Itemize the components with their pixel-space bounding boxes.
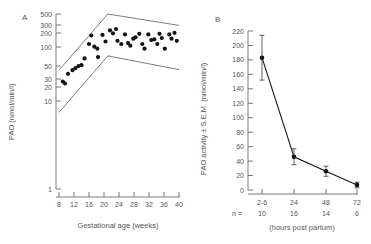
panel-a-boundaries bbox=[59, 14, 179, 112]
ytick-160: 160 bbox=[232, 71, 244, 78]
data-point bbox=[140, 42, 144, 46]
lower-bound-curve bbox=[59, 56, 179, 113]
panel-b-x-ticks bbox=[262, 189, 357, 194]
ytick-1: 1 bbox=[48, 186, 52, 193]
xtick-24: 24 bbox=[290, 199, 298, 206]
panel-b-n-row: n = 10 16 14 6 bbox=[232, 210, 359, 217]
data-point bbox=[66, 72, 70, 76]
panel-a-x-axis-title: Gestational age (weeks) bbox=[78, 221, 159, 230]
panel-b-y-ticks bbox=[248, 31, 253, 190]
xtick-16: 16 bbox=[85, 201, 93, 208]
panel-a-x-ticklabels: 8 12 16 20 24 28 32 36 40 bbox=[57, 201, 183, 208]
data-point bbox=[82, 56, 86, 60]
data-point bbox=[160, 36, 164, 40]
ytick-120: 120 bbox=[232, 100, 244, 107]
data-point bbox=[115, 39, 119, 43]
xtick-2-6: 2-6 bbox=[257, 199, 267, 206]
data-point bbox=[89, 33, 93, 37]
xtick-36: 36 bbox=[160, 201, 168, 208]
n-count-1: 10 bbox=[258, 210, 266, 217]
data-point bbox=[111, 31, 115, 35]
xtick-40: 40 bbox=[175, 201, 183, 208]
ytick-10: 10 bbox=[44, 98, 52, 105]
panel-a-y-ticklabels: 500 300 200 100 50 30 20 10 1 bbox=[40, 11, 52, 193]
panel-b-label: B bbox=[215, 15, 220, 24]
panel-a-x-ticks bbox=[59, 192, 179, 197]
data-point bbox=[146, 32, 150, 36]
panel-a-datapoints bbox=[61, 27, 179, 86]
data-point bbox=[167, 32, 171, 36]
data-point bbox=[108, 28, 112, 32]
panel-b: B 020406080100120140160180200220 2-6 24 … bbox=[190, 0, 371, 244]
data-point bbox=[137, 32, 141, 36]
panel-b-x-axis-title: (hours post partum) bbox=[269, 223, 335, 232]
data-point bbox=[142, 47, 146, 51]
data-point bbox=[79, 63, 83, 67]
xtick-8: 8 bbox=[57, 201, 61, 208]
ytick-60: 60 bbox=[236, 143, 244, 150]
panel-b-y-ticklabels: 020406080100120140160180200220 bbox=[232, 28, 244, 194]
ytick-180: 180 bbox=[232, 56, 244, 63]
n-count-4: 6 bbox=[355, 210, 359, 217]
panel-a-label: A bbox=[22, 13, 28, 22]
series-line bbox=[262, 58, 357, 185]
panel-a-y-ticks bbox=[56, 14, 61, 189]
ytick-80: 80 bbox=[236, 129, 244, 136]
xtick-32: 32 bbox=[145, 201, 153, 208]
ytick-0: 0 bbox=[240, 187, 244, 194]
data-point bbox=[103, 39, 107, 43]
xtick-72: 72 bbox=[353, 199, 361, 206]
ytick-140: 140 bbox=[232, 85, 244, 92]
panel-b-series bbox=[260, 35, 360, 188]
data-point bbox=[133, 35, 137, 39]
data-point bbox=[96, 55, 100, 59]
panel-a-y-axis-title: PAO (nmol/min/l) bbox=[7, 83, 16, 140]
data-point bbox=[355, 183, 360, 188]
xtick-12: 12 bbox=[70, 201, 78, 208]
n-count-3: 14 bbox=[322, 210, 330, 217]
figure-container: A 500 300 200 100 50 bbox=[0, 0, 371, 244]
data-point bbox=[119, 42, 123, 46]
ytick-220: 220 bbox=[232, 28, 244, 35]
data-point bbox=[114, 27, 118, 31]
ytick-20: 20 bbox=[44, 84, 52, 91]
data-point bbox=[95, 47, 99, 51]
data-point bbox=[260, 55, 265, 60]
data-point bbox=[175, 39, 179, 43]
data-point bbox=[324, 169, 329, 174]
panel-a-chart: A 500 300 200 100 50 bbox=[0, 0, 190, 244]
data-point bbox=[87, 42, 91, 46]
panel-b-chart: B 020406080100120140160180200220 2-6 24 … bbox=[190, 0, 371, 244]
ytick-30: 30 bbox=[44, 76, 52, 83]
data-point bbox=[100, 33, 104, 37]
xtick-20: 20 bbox=[100, 201, 108, 208]
data-point bbox=[155, 42, 159, 46]
panel-b-y-axis-title: PAO activity ± S.E.M. (nmol/min/l) bbox=[199, 62, 208, 175]
data-point bbox=[123, 32, 127, 36]
data-point bbox=[152, 37, 156, 41]
data-point bbox=[292, 155, 297, 160]
data-point bbox=[128, 44, 132, 48]
ytick-300: 300 bbox=[40, 22, 52, 29]
data-point bbox=[63, 81, 67, 85]
ytick-50: 50 bbox=[44, 63, 52, 70]
xtick-48: 48 bbox=[322, 199, 330, 206]
ytick-200: 200 bbox=[40, 30, 52, 37]
n-count-2: 16 bbox=[290, 210, 298, 217]
n-prefix-label: n = bbox=[232, 210, 242, 217]
data-point bbox=[172, 31, 176, 35]
panel-a: A 500 300 200 100 50 bbox=[0, 0, 190, 244]
ytick-40: 40 bbox=[236, 158, 244, 165]
data-point bbox=[163, 47, 167, 51]
ytick-200: 200 bbox=[232, 42, 244, 49]
xtick-24: 24 bbox=[115, 201, 123, 208]
panel-b-x-ticklabels: 2-6 24 48 72 bbox=[257, 199, 361, 206]
data-point bbox=[169, 37, 173, 41]
xtick-28: 28 bbox=[130, 201, 138, 208]
ytick-500: 500 bbox=[40, 11, 52, 18]
ytick-20: 20 bbox=[236, 172, 244, 179]
ytick-100: 100 bbox=[232, 114, 244, 121]
data-point bbox=[157, 32, 161, 36]
ytick-100: 100 bbox=[40, 44, 52, 51]
